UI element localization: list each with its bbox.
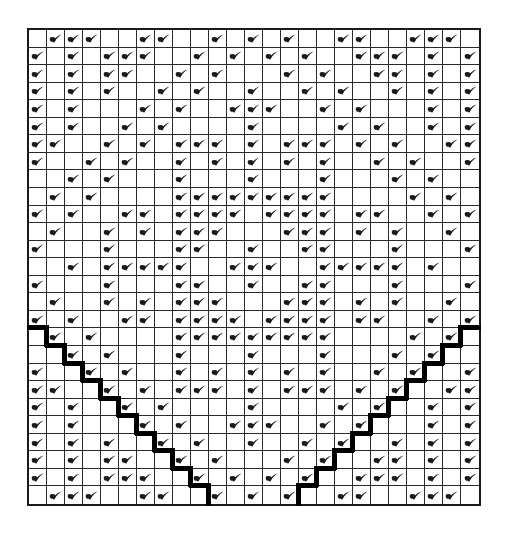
grid-cell-checked — [425, 100, 443, 118]
grid-cell-empty — [227, 399, 245, 417]
grid-cell-empty — [461, 346, 479, 364]
grid-cell-empty — [389, 328, 407, 346]
grid-cell-empty — [209, 48, 227, 66]
grid-cell-empty — [263, 83, 281, 101]
grid-cell-empty — [83, 276, 101, 294]
check-mark-icon — [247, 385, 260, 394]
grid-cell-empty — [407, 65, 425, 83]
check-mark-icon — [283, 192, 296, 201]
grid-cell-empty — [353, 364, 371, 382]
check-mark-icon — [427, 86, 440, 95]
grid-cell-empty — [335, 206, 353, 224]
grid-cell-empty — [299, 100, 317, 118]
check-mark-icon — [247, 34, 260, 43]
check-mark-icon — [103, 227, 116, 236]
check-mark-icon — [265, 104, 278, 113]
grid-cell-empty — [389, 188, 407, 206]
check-mark-icon — [427, 209, 440, 218]
grid-cell-checked — [101, 451, 119, 469]
check-mark-icon — [67, 420, 80, 429]
check-mark-icon — [247, 244, 260, 253]
grid-cell-checked — [317, 170, 335, 188]
check-mark-icon — [211, 69, 224, 78]
check-mark-icon — [175, 420, 188, 429]
check-mark-icon — [139, 473, 152, 482]
grid-cell-empty — [353, 241, 371, 259]
check-mark-icon — [229, 104, 242, 113]
grid-cell-empty — [83, 469, 101, 487]
grid-cell-empty — [371, 434, 389, 452]
check-mark-icon — [301, 51, 314, 60]
check-mark-icon — [283, 157, 296, 166]
grid-cell-checked — [173, 276, 191, 294]
grid-cell-checked — [371, 258, 389, 276]
grid-cell-empty — [443, 65, 461, 83]
grid-cell-checked — [425, 399, 443, 417]
grid-cell-checked — [173, 241, 191, 259]
grid-cell-checked — [29, 364, 47, 382]
check-mark-icon — [445, 385, 458, 394]
grid-cell-empty — [83, 241, 101, 259]
grid-cell-empty — [353, 328, 371, 346]
grid-cell-checked — [389, 48, 407, 66]
check-mark-icon — [427, 350, 440, 359]
grid-cell-checked — [119, 258, 137, 276]
grid-cell-checked — [317, 223, 335, 241]
grid-cell-checked — [47, 381, 65, 399]
check-mark-icon — [373, 69, 386, 78]
check-mark-icon — [445, 34, 458, 43]
grid-cell-checked — [155, 30, 173, 48]
grid-cell-empty — [245, 451, 263, 469]
check-mark-icon — [31, 455, 44, 464]
grid-cell-checked — [335, 486, 353, 504]
grid-cell-checked — [245, 118, 263, 136]
grid-cell-checked — [443, 486, 461, 504]
grid-cell-checked — [101, 65, 119, 83]
grid-cell-empty — [371, 328, 389, 346]
check-mark-icon — [464, 438, 477, 447]
grid-cell-checked — [209, 30, 227, 48]
grid-cell-empty — [29, 346, 47, 364]
grid-cell-empty — [461, 170, 479, 188]
grid-cell-empty — [371, 135, 389, 153]
grid-cell-checked — [47, 188, 65, 206]
grid-cell-empty — [443, 364, 461, 382]
grid-cell-checked — [29, 118, 47, 136]
grid-cell-checked — [173, 328, 191, 346]
check-mark-icon — [31, 402, 44, 411]
grid-cell-checked — [353, 293, 371, 311]
grid-cell-checked — [245, 135, 263, 153]
grid-cell-empty — [227, 486, 245, 504]
grid-cell-checked — [155, 83, 173, 101]
grid-cell-empty — [299, 258, 317, 276]
grid-cell-empty — [407, 135, 425, 153]
check-mark-icon — [427, 174, 440, 183]
check-mark-icon — [391, 69, 404, 78]
check-mark-icon — [247, 192, 260, 201]
grid-cell-checked — [83, 188, 101, 206]
check-mark-icon — [373, 315, 386, 324]
grid-cell-empty — [389, 30, 407, 48]
grid-cell-empty — [191, 258, 209, 276]
check-mark-icon — [319, 332, 332, 341]
grid-cell-checked — [425, 416, 443, 434]
check-mark-icon — [337, 438, 350, 447]
grid-cell-empty — [425, 135, 443, 153]
grid-cell-empty — [137, 170, 155, 188]
grid-cell-empty — [281, 48, 299, 66]
grid-cell-checked — [299, 434, 317, 452]
grid-cell-empty — [227, 241, 245, 259]
check-mark-icon — [31, 367, 44, 376]
grid-cell-empty — [245, 469, 263, 487]
grid-cell-checked — [389, 223, 407, 241]
check-mark-icon — [247, 367, 260, 376]
grid-cell-checked — [263, 48, 281, 66]
check-mark-icon — [391, 244, 404, 253]
grid-cell-empty — [155, 293, 173, 311]
grid-cell-empty — [407, 276, 425, 294]
check-mark-icon — [427, 473, 440, 482]
grid-cell-empty — [227, 65, 245, 83]
grid-cell-empty — [209, 399, 227, 417]
grid-cell-checked — [335, 399, 353, 417]
grid-cell-checked — [29, 399, 47, 417]
